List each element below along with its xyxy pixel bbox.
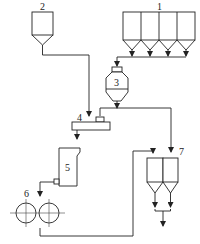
roller-pair — [10, 151, 153, 236]
chute — [40, 148, 80, 196]
storage-bins — [117, 12, 195, 66]
mixer-vessel — [100, 67, 171, 152]
label-vessel: 3 — [114, 77, 119, 88]
label-chute: 5 — [65, 162, 70, 173]
process-flow-diagram: 1 2 3 4 5 6 7 — [0, 0, 200, 244]
label-rollers: 6 — [24, 188, 29, 199]
label-bins: 1 — [157, 1, 162, 12]
label-feeder: 4 — [77, 112, 82, 123]
label-hopper: 2 — [40, 1, 45, 12]
feed-hopper — [32, 12, 89, 116]
twin-silos — [147, 158, 178, 226]
label-silos: 7 — [179, 146, 184, 157]
